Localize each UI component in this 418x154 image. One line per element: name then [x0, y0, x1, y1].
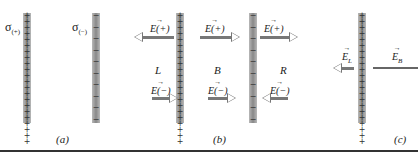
charge-sign: − [250, 82, 257, 88]
E-plus-L-label: →E(+) [150, 18, 170, 34]
charge-sign: − [93, 105, 100, 111]
arrow-left-E-L [341, 67, 354, 70]
caption-a: (a) [56, 133, 69, 145]
charge-sign: − [93, 82, 100, 88]
sigma-positive-label: σ(+) [5, 20, 20, 36]
arrow-left-E-minus-R [270, 97, 288, 100]
E-B-line [373, 67, 418, 69]
caption-b: (b) [213, 133, 226, 145]
E-plus-B-label: →E(+) [205, 18, 225, 34]
charge-sign: − [250, 117, 257, 123]
charge-sign: − [250, 105, 257, 111]
charge-sign: − [93, 13, 100, 19]
positive-plate-a: ++++++++++++++++++++++ [23, 13, 31, 123]
negative-plate-b: −−−−−−−−−− [249, 13, 257, 123]
bottom-rule [0, 150, 418, 152]
charge-sign: − [93, 36, 100, 42]
charge-sign: − [93, 59, 100, 65]
E-minus-L-label: →E(−) [151, 80, 171, 96]
arrow-right-E-plus-R [260, 36, 290, 39]
charge-sign: − [93, 48, 100, 54]
E-minus-B-label: →E(−) [208, 80, 228, 96]
charge-sign: − [250, 59, 257, 65]
region-B: B [214, 64, 221, 76]
region-R: R [280, 64, 287, 76]
charge-sign: − [93, 94, 100, 100]
charge-sign: + [24, 139, 31, 145]
charge-sign: + [177, 139, 184, 145]
positive-plate-c: ++++++++++++++++++++++ [358, 13, 366, 123]
charge-sign: + [359, 139, 366, 145]
arrow-left-E-plus-L [142, 36, 174, 39]
charge-sign: − [250, 13, 257, 19]
arrow-right-E-plus-B [200, 36, 232, 39]
charge-sign: − [250, 94, 257, 100]
region-L: L [155, 64, 161, 76]
charge-sign: − [250, 48, 257, 54]
caption-c: (c) [394, 133, 406, 145]
negative-plate-a: −−−−−−−−−− [92, 13, 100, 123]
charge-sign: − [250, 36, 257, 42]
charge-sign: − [250, 71, 257, 77]
E-plus-R-label: →E(+) [264, 18, 284, 34]
charge-sign: − [250, 25, 257, 31]
E-L-label: →EL [342, 46, 352, 65]
charge-sign: − [93, 117, 100, 123]
charge-sign: − [93, 71, 100, 77]
positive-plate-b: ++++++++++++++++++++++ [176, 13, 184, 123]
arrow-right-E-minus-L [152, 97, 170, 100]
arrow-right-E-minus-B [208, 97, 228, 100]
E-minus-R-label: →E(−) [270, 80, 290, 96]
charge-sign: − [93, 25, 100, 31]
sigma-negative-label: σ(−) [72, 20, 87, 36]
E-B-label: →EB [392, 46, 402, 65]
